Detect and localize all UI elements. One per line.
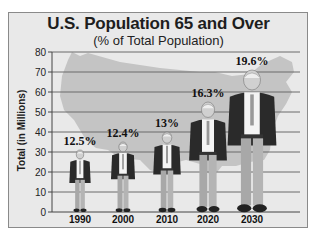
person-figure-1990: [69, 150, 90, 212]
y-tick-label: 30: [35, 147, 47, 158]
y-tick-label: 50: [35, 107, 47, 118]
x-tick-label: 1990: [69, 214, 92, 225]
percent-annotation: 16.3%: [192, 86, 225, 100]
y-tick-label: 40: [35, 127, 47, 138]
percent-annotation: 19.6%: [236, 54, 269, 68]
y-tick-label: 60: [35, 87, 47, 98]
y-tick-label: 70: [35, 67, 47, 78]
x-axis-ticks: 19902000201020202030: [69, 214, 264, 225]
x-tick-label: 2010: [156, 214, 179, 225]
plot-area: 01020304050607080 19902000201020202030 1…: [0, 0, 317, 237]
y-tick-label: 80: [35, 47, 47, 58]
x-tick-label: 2030: [241, 214, 264, 225]
percent-annotation: 12.5%: [64, 134, 97, 148]
y-axis-ticks: 01020304050607080: [35, 47, 52, 218]
percent-annotation: 13%: [155, 116, 179, 130]
x-tick-label: 2000: [112, 214, 135, 225]
x-tick-label: 2020: [197, 214, 220, 225]
y-tick-label: 20: [35, 167, 47, 178]
y-tick-label: 0: [40, 207, 46, 218]
percent-annotation: 12.4%: [107, 126, 140, 140]
y-tick-label: 10: [35, 187, 47, 198]
